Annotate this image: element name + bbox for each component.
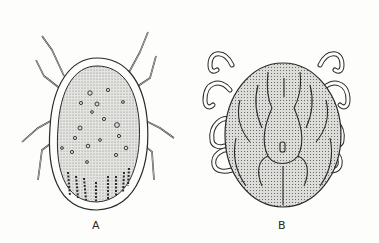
panel-label-b: B bbox=[278, 219, 286, 232]
figure: A B bbox=[0, 0, 379, 243]
tick-b bbox=[205, 54, 348, 207]
tick-illustrations bbox=[0, 0, 379, 243]
panel-label-a: A bbox=[92, 219, 100, 232]
tick-a bbox=[22, 32, 174, 210]
